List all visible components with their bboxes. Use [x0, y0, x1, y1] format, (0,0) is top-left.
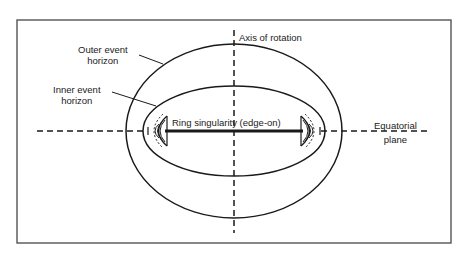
- inner-horizon-label-line1: Inner event: [53, 84, 101, 95]
- inner-horizon-leader: [112, 92, 156, 106]
- axis-of-rotation-label: Axis of rotation: [239, 32, 302, 43]
- outer-horizon-label: Outer event horizon: [78, 44, 128, 66]
- ring-cap-right: [301, 114, 320, 148]
- equatorial-label-line1: Equatorial: [374, 120, 417, 131]
- equatorial-label-line2: plane: [374, 134, 417, 145]
- equatorial-plane-label: Equatorial plane: [374, 120, 417, 145]
- ring-singularity-label: Ring singularity (edge-on): [172, 117, 281, 128]
- outer-horizon-leader: [139, 55, 163, 64]
- inner-horizon-label: Inner event horizon: [53, 84, 101, 106]
- outer-horizon-label-line1: Outer event: [78, 44, 128, 55]
- outer-horizon-label-line2: horizon: [78, 55, 128, 66]
- ring-cap-left: [148, 114, 167, 148]
- inner-horizon-label-line2: horizon: [53, 95, 101, 106]
